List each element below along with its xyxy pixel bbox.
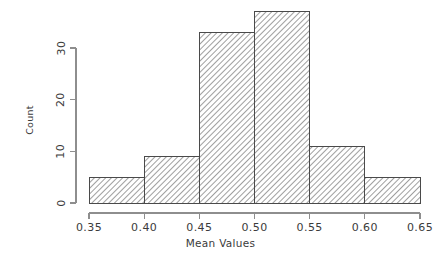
x-tick-label: 0.60 (352, 221, 378, 234)
x-axis-title: Mean Values (186, 237, 256, 249)
histogram-bar (89, 177, 144, 203)
y-tick-label: 20 (55, 92, 68, 107)
y-tick-label: 0 (55, 199, 68, 206)
histogram-bar (310, 146, 365, 203)
x-tick-label: 0.35 (76, 221, 102, 234)
histogram-bar (144, 157, 199, 204)
y-tick-label: 30 (55, 41, 68, 56)
x-tick-label: 0.50 (241, 221, 267, 234)
y-axis-title: Count (24, 105, 35, 135)
histogram-bar (365, 177, 420, 203)
histogram-plot-area: 0102030 0.350.400.450.500.550.600.65 Mea… (0, 0, 441, 267)
x-tick-label: 0.45 (186, 221, 212, 234)
x-tick-label: 0.40 (131, 221, 157, 234)
x-tick-label: 0.65 (407, 221, 433, 234)
histogram-bar (199, 33, 254, 204)
histogram-bar (255, 12, 310, 203)
histogram-chart: 0102030 0.350.400.450.500.550.600.65 Mea… (0, 0, 441, 267)
x-tick-label: 0.55 (297, 221, 323, 234)
y-tick-label: 10 (55, 144, 68, 159)
